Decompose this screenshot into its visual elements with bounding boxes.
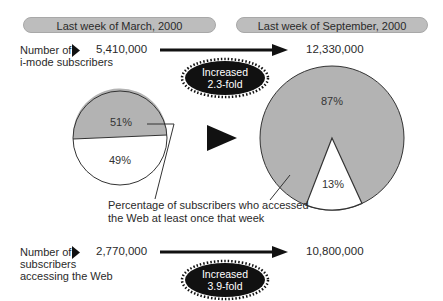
web-subscribers-before: 2,770,000: [96, 245, 147, 258]
september-not-accessed-pct: 13%: [322, 178, 344, 190]
march-accessed-pct: 51%: [110, 116, 132, 128]
imode-growth-badge-line1: Increased: [185, 66, 265, 78]
web-growth-badge-line2: 3.9-fold: [185, 280, 265, 292]
september-accessed-pct: 87%: [321, 95, 343, 107]
march-not-accessed-pct: 49%: [109, 154, 131, 166]
period-header-after: Last week of September, 2000: [236, 17, 428, 33]
web-growth-badge-line1: Increased: [185, 268, 265, 280]
web-subscribers-after: 10,800,000: [306, 245, 364, 258]
transition-arrow-icon: [207, 125, 237, 151]
row-label-web-line3: accessing the Web: [20, 270, 113, 282]
imode-subscribers-before: 5,410,000: [96, 43, 147, 56]
imode-growth-badge-line2: 2.3-fold: [185, 78, 265, 90]
pie-caption-line1: Percentage of subscribers who accessed: [108, 199, 309, 212]
pie-caption-line2: the Web at least once that week: [108, 212, 264, 225]
row-label-web-line2: subscribers: [20, 258, 76, 270]
growth-arrow-web: [160, 246, 288, 258]
pie-chart-march: [73, 88, 167, 185]
imode-subscribers-after: 12,330,000: [306, 43, 364, 56]
row-label-imode-line1: Number of: [20, 44, 71, 56]
growth-arrow-imode: [160, 44, 288, 56]
row-label-imode-line2: i-mode subscribers: [20, 56, 113, 68]
row-label-web-line1: Number of: [20, 246, 71, 258]
period-header-before: Last week of March, 2000: [23, 17, 216, 33]
